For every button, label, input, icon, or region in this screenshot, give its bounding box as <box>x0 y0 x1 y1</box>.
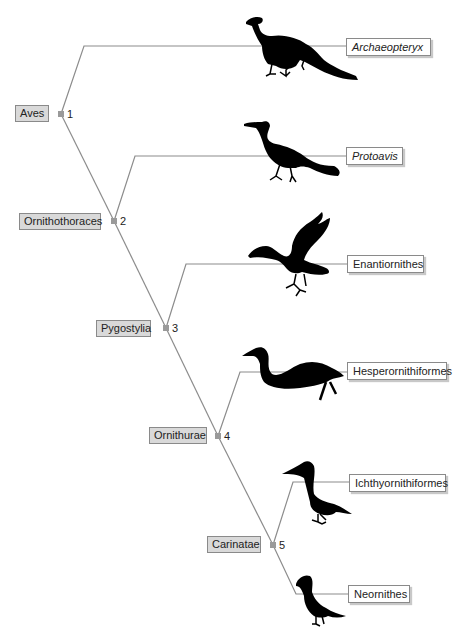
node-marker-1 <box>58 111 64 117</box>
taxon-label-hesperornithiformes: Hesperornithiformes <box>347 362 447 380</box>
branch-node4-node5 <box>218 436 273 545</box>
node-number-4: 4 <box>224 430 230 442</box>
clade-label-ornithothoraces: Ornithothoraces <box>19 213 101 230</box>
node-marker-3 <box>163 325 169 331</box>
node-marker-2 <box>111 218 117 224</box>
protoavis-silhouette-icon <box>244 121 340 182</box>
node-number-5: 5 <box>279 539 285 551</box>
branch-node1-node2 <box>61 114 114 221</box>
node-number-3: 3 <box>172 322 178 334</box>
branch-node2-node3 <box>114 221 166 328</box>
taxon-label-enantiornithes: Enantiornithes <box>347 255 424 273</box>
clade-label-aves: Aves <box>15 105 49 122</box>
branch-node3-node4 <box>166 328 218 436</box>
node-number-2: 2 <box>120 215 126 227</box>
enantiornithine-silhouette-icon <box>248 212 330 296</box>
node-marker-5 <box>270 542 276 548</box>
taxon-label-ichthyornithiformes: Ichthyornithiformes <box>349 474 446 492</box>
node-number-1: 1 <box>67 108 73 120</box>
node-marker-4 <box>215 433 221 439</box>
clade-label-ornithurae: Ornithurae <box>149 427 207 444</box>
taxon-label-archaeopteryx: Archaeopteryx <box>346 38 431 56</box>
archaeopteryx-silhouette-icon <box>246 17 358 80</box>
clade-label-pygostylia: Pygostylia <box>96 320 151 337</box>
hesperornis-silhouette-icon <box>242 347 344 400</box>
ichthyornis-silhouette-icon <box>282 461 352 524</box>
taxon-label-protoavis: Protoavis <box>346 147 403 165</box>
neornithine-silhouette-icon <box>296 575 346 626</box>
taxon-label-neornithes: Neornithes <box>348 585 410 603</box>
clade-label-carinatae: Carinatae <box>207 536 261 553</box>
